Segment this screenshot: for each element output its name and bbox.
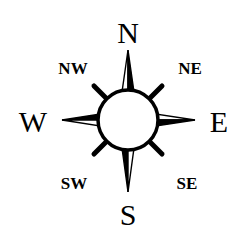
label-southwest: SW xyxy=(61,174,87,193)
label-east: E xyxy=(210,105,228,138)
label-north: N xyxy=(117,16,139,49)
label-northwest: NW xyxy=(58,59,87,78)
label-south: S xyxy=(120,198,137,231)
compass-rose: N S W E NW NE SW SE xyxy=(0,0,247,239)
center-ring xyxy=(98,90,158,150)
label-northeast: NE xyxy=(178,59,202,78)
label-west: W xyxy=(19,105,48,138)
compass-rose-graphic: N S W E NW NE SW SE xyxy=(0,0,247,239)
label-southeast: SE xyxy=(177,174,198,193)
